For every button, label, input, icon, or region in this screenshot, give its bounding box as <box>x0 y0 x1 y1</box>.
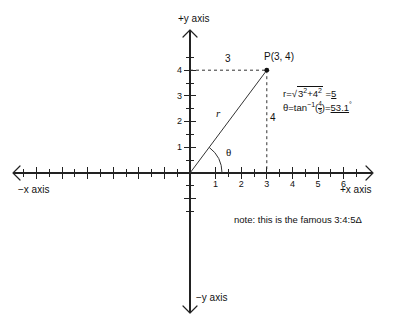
y-tick-label-3: 3 <box>177 92 182 101</box>
axis-label-negative-x: −x axis <box>18 185 49 195</box>
point-label-p: P(3, 4) <box>264 52 294 62</box>
x-tick-label-3: 3 <box>264 180 269 189</box>
formula-theta-lhs: θ=tan <box>283 102 307 113</box>
point-marker-p <box>264 68 269 73</box>
x-tick-label-5: 5 <box>316 180 321 189</box>
segment-label-hypotenuse: r <box>216 108 220 119</box>
figure-note: note: this is the famous 3:4:5Δ <box>234 215 362 225</box>
x-tick-label-4: 4 <box>290 180 295 189</box>
x-tick-label-2: 2 <box>239 180 244 189</box>
x-tick-label-1: 1 <box>213 180 218 189</box>
square-root-icon: √32+42 <box>292 86 323 99</box>
formula-theta-fraction: 43 <box>318 101 322 116</box>
segment-label-vertical: 4 <box>270 113 276 123</box>
axis-label-positive-y: +y axis <box>178 14 209 24</box>
formula-theta-exponent: −1 <box>307 101 315 108</box>
y-tick-label-1: 1 <box>177 143 182 152</box>
formula-radius: r=√32+42 =5 <box>283 86 336 99</box>
angle-label-theta: θ <box>226 147 231 158</box>
degree-icon: ° <box>349 101 352 108</box>
x-tick-label-6: 6 <box>341 180 346 189</box>
figure-canvas: +y axis −y axis +x axis −x axis 1 2 3 4 … <box>0 0 396 333</box>
formula-exponent-b: 2 <box>318 87 322 94</box>
formula-radius-value: 5 <box>331 88 336 99</box>
y-tick-label-2: 2 <box>177 117 182 126</box>
formula-theta-numerator: 4 <box>318 101 322 108</box>
segment-label-horizontal: 3 <box>225 54 231 64</box>
formula-theta-denominator: 3 <box>318 108 322 116</box>
formula-radius-lhs: r= <box>283 88 292 99</box>
y-tick-label-4: 4 <box>177 66 182 75</box>
formula-theta: θ=tan−1(43)=53.1° <box>283 101 352 116</box>
formula-theta-value: 53.1 <box>331 102 350 113</box>
axis-label-negative-y: −y axis <box>196 293 227 303</box>
coordinate-plot <box>0 0 396 333</box>
